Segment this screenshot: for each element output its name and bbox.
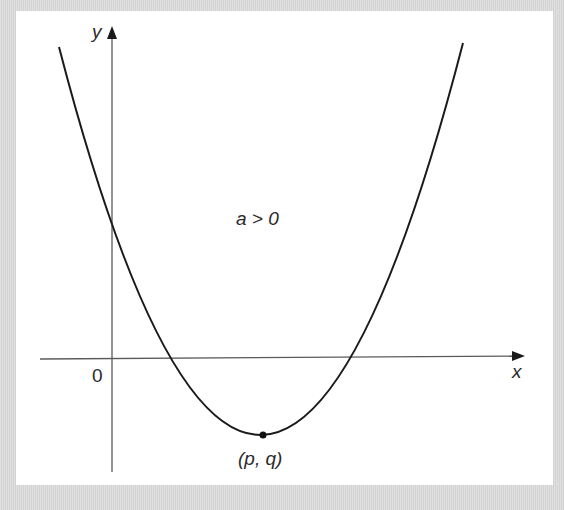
condition-label: a > 0 — [236, 209, 279, 228]
x-axis-label: x — [512, 362, 522, 381]
condition-label-text: a > 0 — [236, 208, 279, 229]
y-axis-arrow-icon — [107, 26, 117, 39]
parabola-graph — [0, 0, 564, 510]
y-axis-label: y — [92, 22, 102, 41]
parabola-curve — [59, 43, 463, 435]
vertex-point — [260, 432, 267, 439]
vertex-label: (p, q) — [238, 449, 282, 468]
origin-label: 0 — [92, 366, 103, 385]
x-axis-arrow-icon — [512, 351, 525, 361]
